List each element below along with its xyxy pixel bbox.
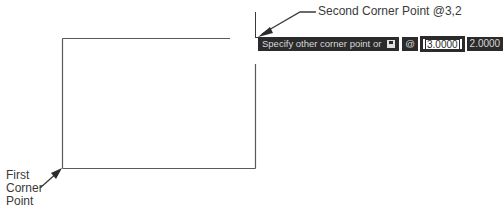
dynamic-input-prompt: Specify other corner point or @ 3.0000 2… bbox=[258, 37, 503, 51]
down-arrow-icon[interactable] bbox=[387, 40, 395, 48]
x-coordinate-input[interactable]: 3.0000 bbox=[421, 37, 464, 51]
command-prompt-text: Specify other corner point or bbox=[262, 37, 381, 51]
second-corner-label: Second Corner Point @3,2 bbox=[318, 5, 462, 18]
x-coordinate-value[interactable]: 3.0000 bbox=[425, 39, 460, 51]
relative-coordinate-symbol: @ bbox=[402, 37, 418, 51]
command-prompt-box: Specify other corner point or bbox=[258, 37, 399, 51]
rectangle-preview bbox=[63, 39, 256, 169]
first-corner-label-line3: Point bbox=[6, 195, 56, 208]
first-corner-label: First Corner Point bbox=[6, 169, 56, 208]
y-coordinate-input[interactable]: 2.0000 bbox=[467, 37, 503, 51]
second-corner-arrow-icon bbox=[258, 12, 316, 37]
crosshair-cursor bbox=[256, 12, 263, 38]
